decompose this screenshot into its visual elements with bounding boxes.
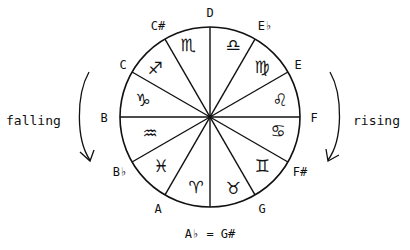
- note-label-f-sharp: F#: [293, 165, 308, 179]
- note-label-c-sharp: C#: [151, 19, 166, 33]
- cancer-icon: ♋: [270, 121, 285, 141]
- note-label-c: C: [119, 58, 126, 72]
- pisces-icon: ♓: [153, 156, 168, 176]
- rising-arrowhead-icon: [326, 149, 339, 161]
- libra-icon: ♎: [225, 35, 240, 55]
- taurus-icon: ♉: [225, 178, 240, 198]
- leo-icon: ♌: [272, 90, 287, 110]
- note-label-e: E: [294, 58, 301, 72]
- note-label-a: A: [154, 202, 162, 216]
- aries-icon: ♈: [188, 177, 203, 197]
- enharmonic-label: A♭ = G#: [185, 227, 236, 241]
- falling-arrow-icon: [79, 72, 90, 160]
- gemini-icon: ♊: [254, 156, 269, 176]
- note-label-d: D: [206, 6, 213, 20]
- sagittarius-icon: ♐: [147, 58, 162, 78]
- note-label-b-flat: B♭: [113, 165, 127, 179]
- rising-arrow-icon: [328, 72, 340, 160]
- note-labels: D E♭ E F F# G A B♭ B C C#: [100, 6, 317, 216]
- falling-label: falling: [6, 113, 61, 128]
- note-label-g: G: [258, 202, 265, 216]
- note-label-e-flat: E♭: [258, 19, 272, 33]
- capricorn-icon: ♑: [135, 90, 150, 110]
- scorpio-icon: ♏: [180, 35, 195, 55]
- wheel-center-dot: [208, 115, 212, 119]
- note-label-f: F: [310, 111, 317, 125]
- aquarius-icon: ♒: [142, 123, 157, 143]
- virgo-icon: ♍: [254, 57, 269, 77]
- zodiac-pitch-wheel: D E♭ E F F# G A B♭ B C C# ♎ ♍ ♌ ♋ ♊ ♉ ♈ …: [0, 0, 410, 250]
- note-label-b: B: [100, 111, 107, 125]
- rising-label: rising: [353, 113, 400, 128]
